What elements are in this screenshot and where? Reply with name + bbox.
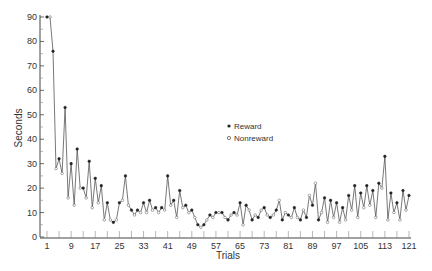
- reward-point: [281, 219, 284, 222]
- nonreward-point: [393, 211, 396, 214]
- reward-point: [191, 209, 194, 212]
- reward-point: [118, 201, 121, 204]
- reward-point: [215, 211, 218, 214]
- nonreward-point: [97, 201, 100, 204]
- reward-point: [384, 155, 387, 158]
- x-tick-label: 113: [378, 241, 392, 251]
- reward-point: [396, 201, 399, 204]
- reward-point: [46, 16, 49, 19]
- nonreward-point: [332, 216, 335, 219]
- reward-point: [70, 162, 73, 165]
- nonreward-point: [338, 221, 341, 224]
- nonreward-point: [290, 216, 293, 219]
- nonreward-point: [375, 216, 378, 219]
- x-tick-label: 33: [139, 241, 149, 251]
- nonreward-point: [79, 187, 82, 190]
- nonreward-point: [296, 216, 299, 219]
- x-tick-label: 89: [307, 241, 317, 251]
- nonreward-point: [169, 204, 172, 207]
- reward-point: [317, 219, 320, 222]
- reward-point: [52, 50, 55, 53]
- nonreward-point: [139, 211, 142, 214]
- reward-point: [353, 184, 356, 187]
- nonreward-point: [121, 199, 124, 202]
- reward-point: [136, 209, 139, 212]
- reward-point: [263, 206, 266, 209]
- nonreward-point: [387, 219, 390, 222]
- legend-reward-label: Reward: [234, 122, 262, 131]
- reward-point: [209, 214, 212, 217]
- reward-point: [124, 175, 127, 178]
- nonreward-point: [49, 16, 52, 19]
- reward-point: [311, 204, 314, 207]
- reward-point: [197, 223, 200, 226]
- reward-point: [64, 106, 67, 109]
- reward-point: [402, 189, 405, 192]
- reward-marker-icon: [227, 124, 230, 127]
- nonreward-point: [206, 219, 209, 222]
- nonreward-marker-icon: [227, 136, 230, 139]
- y-tick-label: 70: [27, 61, 37, 71]
- nonreward-point: [67, 197, 70, 200]
- y-tick-label: 30: [27, 159, 37, 169]
- nonreward-point: [103, 219, 106, 222]
- nonreward-point: [302, 209, 305, 212]
- x-axis: 191725334149576573818997105113121: [40, 231, 417, 251]
- reward-point: [287, 214, 290, 217]
- y-tick-label: 50: [27, 110, 37, 120]
- reward-point: [58, 157, 61, 160]
- y-tick-label: 90: [27, 12, 37, 22]
- reward-point: [88, 160, 91, 163]
- reward-point: [148, 199, 151, 202]
- nonreward-point: [381, 187, 384, 190]
- nonreward-point: [127, 204, 130, 207]
- reward-point: [130, 209, 133, 212]
- nonreward-point: [55, 167, 58, 170]
- reward-point: [245, 204, 248, 207]
- nonreward-point: [320, 211, 323, 214]
- nonreward-point: [368, 204, 371, 207]
- nonreward-point: [163, 209, 166, 212]
- reward-point: [269, 216, 272, 219]
- x-tick-label: 25: [114, 241, 124, 251]
- legend: Reward Nonreward: [227, 122, 273, 143]
- nonreward-point: [399, 219, 402, 222]
- nonreward-point: [344, 219, 347, 222]
- reward-point: [275, 209, 278, 212]
- reward-point: [329, 199, 332, 202]
- plot-area: [46, 16, 411, 229]
- nonreward-point: [242, 223, 245, 226]
- reward-point: [239, 201, 242, 204]
- x-tick-label: 1: [44, 241, 49, 251]
- reward-point: [293, 206, 296, 209]
- nonreward-point: [115, 219, 118, 222]
- x-tick-label: 17: [90, 241, 100, 251]
- nonreward-point: [73, 204, 76, 207]
- nonreward-point: [362, 206, 365, 209]
- x-tick-label: 73: [259, 241, 269, 251]
- nonreward-point: [278, 199, 281, 202]
- x-tick-label: 41: [163, 241, 173, 251]
- nonreward-point: [314, 182, 317, 185]
- nonreward-point: [224, 216, 227, 219]
- reward-point: [184, 204, 187, 207]
- y-tick-label: 60: [27, 85, 37, 95]
- x-tick-label: 105: [353, 241, 368, 251]
- reward-point: [100, 184, 103, 187]
- nonreward-point: [350, 209, 353, 212]
- nonreward-point: [236, 214, 239, 217]
- y-tick-label: 20: [27, 183, 37, 193]
- nonreward-point: [133, 214, 136, 217]
- reward-point: [335, 201, 338, 204]
- y-tick-label: 10: [27, 208, 37, 218]
- nonreward-point: [284, 211, 287, 214]
- reward-point: [341, 206, 344, 209]
- nonreward-point: [181, 206, 184, 209]
- y-tick-label: 40: [27, 134, 37, 144]
- latency-chart: 0102030405060708090 19172533414957657381…: [0, 0, 432, 271]
- nonreward-point: [200, 226, 203, 229]
- nonreward-point: [175, 216, 178, 219]
- reward-point: [221, 211, 224, 214]
- reward-point: [76, 148, 79, 151]
- x-tick-label: 49: [187, 241, 197, 251]
